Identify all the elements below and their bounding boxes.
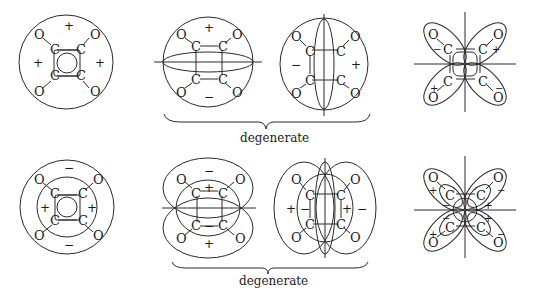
sign-minus: − — [442, 200, 450, 211]
carbon-atom: C — [218, 218, 228, 233]
carbon-atom: C — [305, 217, 315, 232]
oxygen-atom: O — [176, 27, 187, 42]
oxygen-atom: O — [176, 172, 187, 187]
carbon-atom: C — [305, 73, 315, 88]
oxygen-atom: O — [428, 170, 439, 185]
carbon-atom: C — [218, 186, 228, 201]
row1-panel4: C C C C O O O O − + + − — [414, 12, 516, 112]
oxygen-atom: O — [493, 27, 504, 42]
oxygen-atom: O — [350, 230, 361, 245]
sign-minus: − — [64, 161, 74, 175]
orbital-diagram: C C C C O O O O + + + C C C C O O O O + — [0, 0, 536, 293]
sign-minus: − — [64, 238, 74, 252]
oxygen-atom: O — [291, 230, 302, 245]
oxygen-atom: O — [350, 172, 361, 187]
oxygen-atom: O — [291, 86, 302, 101]
carbon-atom: C — [305, 44, 315, 59]
sign-minus: − — [495, 83, 503, 94]
oxygen-atom: O — [93, 228, 104, 243]
row1-panel2: C C C C O O O O + − — [154, 17, 262, 107]
oxygen-atom: O — [90, 84, 101, 99]
carbon-atom: C — [478, 42, 488, 57]
oxygen-atom: O — [235, 172, 246, 187]
carbon-atom: C — [305, 188, 315, 203]
oxygen-atom: O — [428, 27, 439, 42]
sign-plus: + — [492, 44, 500, 55]
carbon-atom: C — [76, 68, 86, 83]
sign-plus: − — [497, 229, 505, 240]
carbon-atom: C — [50, 68, 60, 83]
oxygen-atom: O — [34, 27, 45, 42]
sign-minus: − — [204, 219, 214, 233]
oxygen-atom: O — [93, 172, 104, 187]
sign-minus: − — [497, 185, 505, 196]
row2-panel1: C C C C O O O O − + + − — [20, 160, 114, 254]
sign-minus: − — [291, 58, 301, 72]
sign-plus: + — [33, 56, 43, 70]
oxygen-atom: O — [34, 172, 45, 187]
sign-minus: − — [204, 90, 214, 104]
oxygen-atom: O — [176, 231, 187, 246]
sign-plus: + — [286, 202, 296, 216]
row2-degenerate-brace: degenerate — [172, 262, 368, 288]
oxygen-atom: O — [34, 84, 45, 99]
sign-minus: + — [429, 229, 437, 240]
oxygen-atom: O — [350, 86, 361, 101]
sign-plus: + — [342, 202, 352, 216]
sign-plus: + — [351, 58, 361, 72]
carbon-atom: C — [336, 73, 346, 88]
carbon-atom: C — [478, 74, 488, 89]
carbon-atom: C — [191, 218, 201, 233]
carbon-atom: C — [76, 42, 86, 57]
sign-plus: + — [204, 21, 214, 35]
carbon-atom: C — [191, 72, 201, 87]
sign-plus: + — [430, 83, 438, 94]
oxygen-atom: O — [232, 27, 243, 42]
row2-panel4: C C C C O O O O + − − + − + + − — [414, 156, 516, 258]
sign-plus: − — [442, 213, 450, 224]
oxygen-atom: O — [291, 29, 302, 44]
sign-minus: − — [300, 202, 310, 216]
row2-panel2: C C C C O O O O − + − + — [162, 158, 256, 258]
oxygen-atom: O — [232, 85, 243, 100]
oxygen-atom: O — [90, 27, 101, 42]
sign-plus: + — [95, 56, 105, 70]
carbon-atom: C — [191, 39, 201, 54]
degenerate-label: degenerate — [239, 274, 308, 288]
sign-minus: − — [433, 44, 441, 55]
sign-plus: + — [40, 201, 50, 215]
carbon-atom: C — [50, 186, 60, 201]
carbon-atom: C — [336, 44, 346, 59]
sign-plus: + — [87, 201, 97, 215]
sign-plus: + — [204, 237, 214, 251]
row1-degenerate-brace: degenerate — [164, 114, 370, 145]
oxygen-atom: O — [350, 29, 361, 44]
sign-minus: − — [357, 202, 367, 216]
sign-plus: + — [204, 181, 214, 195]
carbon-atom: C — [336, 188, 346, 203]
sign-minus: − — [204, 164, 214, 178]
row2-panel3: C C C C O O O O + − + − — [274, 158, 376, 258]
carbon-atom: C — [50, 42, 60, 57]
row1-panel1: C C C C O O O O + + + — [19, 15, 113, 109]
carbon-atom: C — [191, 186, 201, 201]
carbon-atom: C — [443, 42, 453, 57]
carbon-atom: C — [443, 74, 453, 89]
row1-panel3: C C C C O O O O − + — [280, 14, 368, 116]
oxygen-atom: O — [235, 231, 246, 246]
sign-plus: + — [429, 185, 437, 196]
oxygen-atom: O — [34, 228, 45, 243]
sign-minus: + — [484, 213, 492, 224]
sign-plus: + — [484, 200, 492, 211]
sign-plus: + — [64, 19, 74, 33]
oxygen-atom: O — [493, 170, 504, 185]
carbon-atom: C — [336, 217, 346, 232]
oxygen-atom: O — [291, 172, 302, 187]
oxygen-atom: O — [176, 85, 187, 100]
degenerate-label: degenerate — [240, 131, 309, 145]
